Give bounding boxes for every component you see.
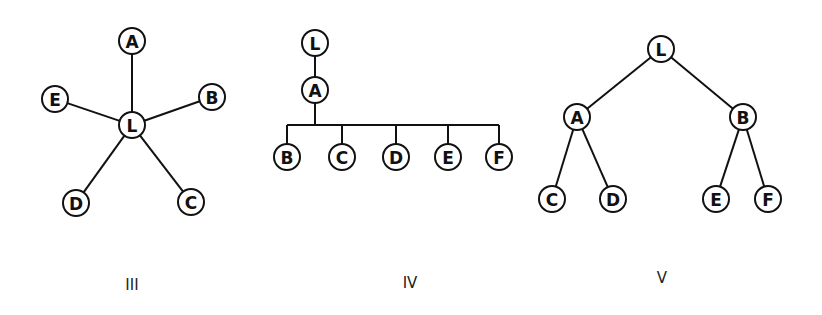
node-c: C (178, 189, 204, 215)
node-label: L (656, 40, 667, 60)
node-label: L (310, 34, 321, 54)
node-label: D (606, 190, 620, 210)
edge-a-c (556, 129, 573, 186)
edge-l-d (84, 136, 125, 193)
diagram-caption: III (125, 276, 138, 294)
edge-b-f (747, 129, 764, 186)
node-e: E (435, 144, 461, 170)
edge-b-e (720, 129, 739, 186)
node-a: A (119, 28, 145, 54)
node-label: E (442, 148, 454, 168)
node-label: A (308, 81, 322, 101)
node-label: B (206, 88, 219, 108)
node-label: C (185, 193, 197, 213)
node-label: A (125, 32, 139, 52)
node-label: C (336, 148, 348, 168)
diagram-v-binary-tree: LABCDEFV (539, 36, 781, 287)
node-d: D (600, 186, 626, 212)
node-label: C (546, 190, 558, 210)
node-label: D (389, 148, 403, 168)
node-b: B (199, 84, 225, 110)
node-d: D (383, 144, 409, 170)
node-f: F (755, 186, 781, 212)
edge-l-c (140, 135, 183, 191)
node-l: L (648, 36, 674, 62)
node-label: A (570, 108, 584, 128)
node-l: L (119, 112, 145, 138)
edge-l-b (671, 57, 733, 108)
node-label: E (710, 190, 722, 210)
node-b: B (730, 104, 756, 130)
node-label: F (493, 148, 505, 168)
node-c: C (539, 186, 565, 212)
node-e: E (42, 86, 68, 112)
diagram-iii-star: LABCDEIII (42, 28, 225, 294)
node-label: F (762, 190, 774, 210)
node-f: F (486, 144, 512, 170)
node-a: A (564, 104, 590, 130)
edge-l-e (67, 103, 119, 121)
diagram-iv-chain-bus: LABCDEFIV (274, 30, 512, 292)
node-label: L (127, 116, 138, 136)
node-a: A (302, 77, 328, 103)
node-b: B (274, 144, 300, 170)
node-l: L (302, 30, 328, 56)
edge-l-b (144, 101, 199, 120)
node-label: D (69, 194, 83, 214)
node-e: E (703, 186, 729, 212)
diagram-caption: V (657, 269, 668, 287)
edge-l-a (587, 57, 651, 109)
diagram-canvas: LABCDEIII LABCDEFIV LABCDEFV (0, 0, 822, 315)
node-c: C (329, 144, 355, 170)
diagram-caption: IV (403, 274, 418, 292)
node-label: B (281, 148, 294, 168)
node-label: B (737, 108, 750, 128)
edge-a-d (582, 129, 608, 187)
node-d: D (63, 190, 89, 216)
node-label: E (49, 90, 61, 110)
